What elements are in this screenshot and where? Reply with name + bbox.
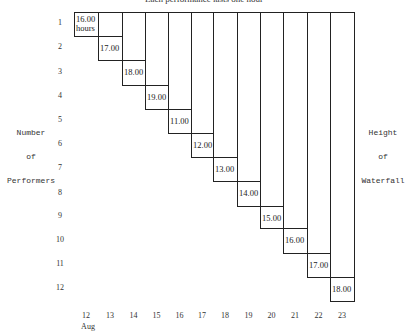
right-axis-label-line-2: of: [353, 152, 408, 161]
y-axis-tick: 1: [50, 18, 70, 27]
diagram-title: Each performance lasts one hour: [0, 0, 408, 4]
x-axis-tick: 19: [237, 311, 261, 320]
right-axis-label-line-3: Waterfall: [353, 176, 408, 185]
x-axis-tick: 15: [145, 311, 169, 320]
x-axis-tick: 22: [307, 311, 331, 320]
time-label: 17.00: [309, 261, 328, 270]
y-axis-label-line-2: of: [1, 152, 61, 161]
time-label: 13.00: [215, 165, 234, 174]
x-axis-tick: 17: [190, 311, 214, 320]
y-axis-tick: 10: [50, 235, 70, 244]
x-axis-month: Aug: [76, 322, 100, 331]
y-axis-tick: 4: [50, 91, 70, 100]
time-label: 11.00: [170, 117, 189, 126]
x-axis-tick: 23: [330, 311, 354, 320]
time-label: 14.00: [239, 189, 258, 198]
right-axis-label-line-1: Height: [353, 128, 408, 137]
day-column: [330, 12, 355, 302]
y-axis-tick: 2: [50, 42, 70, 51]
y-axis-tick: 5: [50, 115, 70, 124]
time-label: 12.00: [193, 141, 212, 150]
x-axis-tick: 12: [74, 311, 98, 320]
y-axis-tick: 11: [50, 259, 70, 268]
x-axis-tick: 18: [213, 311, 237, 320]
time-label: 15.00: [262, 214, 281, 223]
x-axis-tick: 20: [260, 311, 284, 320]
y-axis-tick: 12: [50, 283, 70, 292]
y-axis-label-line-3: Performers: [1, 176, 61, 185]
time-label: 17.00: [100, 44, 119, 53]
time-label: 18.00: [124, 68, 143, 77]
y-axis-tick: 9: [50, 211, 70, 220]
y-axis-tick: 6: [50, 139, 70, 148]
day-column: [237, 12, 261, 207]
y-axis-tick: 7: [50, 163, 70, 172]
x-axis-tick: 14: [122, 311, 146, 320]
time-label: 19.00: [147, 93, 166, 102]
x-axis-tick: 16: [168, 311, 192, 320]
time-unit-label: hours: [76, 24, 95, 33]
y-axis-tick: 8: [50, 188, 70, 197]
y-axis-label-line-1: Number: [1, 128, 61, 137]
day-column: [283, 12, 308, 254]
x-axis-tick: 21: [283, 311, 307, 320]
day-column: [260, 12, 284, 229]
x-axis-tick: 13: [98, 311, 122, 320]
day-column: [307, 12, 331, 278]
time-label: 18.00: [332, 285, 351, 294]
time-label: 16.00: [285, 236, 304, 245]
y-axis-tick: 3: [50, 67, 70, 76]
